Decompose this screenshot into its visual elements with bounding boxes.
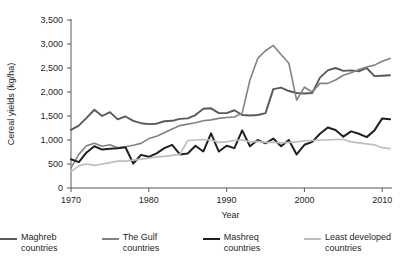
- legend-item[interactable]: Maghreb countries: [0, 232, 88, 254]
- series-line: [71, 68, 390, 130]
- chart-figure: 05001,0001,5002,0002,5003,0003,500197019…: [0, 0, 412, 268]
- y-axis-tick-label: 1,500: [40, 111, 63, 121]
- line-chart-canvas: 05001,0001,5002,0002,5003,0003,500197019…: [0, 0, 412, 232]
- x-axis-tick-label: 1970: [61, 195, 81, 205]
- x-axis-tick-label: 1990: [217, 195, 237, 205]
- legend-swatch: [203, 238, 220, 240]
- y-axis-tick-label: 2,500: [40, 63, 63, 73]
- legend-swatch: [304, 238, 321, 240]
- legend-label: Mashreq countries: [224, 232, 290, 254]
- y-axis-tick-label: 1,000: [40, 135, 63, 145]
- y-axis-tick-label: 0: [58, 183, 63, 193]
- x-axis-tick-label: 2000: [294, 195, 314, 205]
- legend-item[interactable]: Least developed countries: [304, 232, 412, 254]
- legend-label: Maghreb countries: [21, 232, 88, 254]
- x-axis-title: Year: [221, 210, 239, 220]
- x-axis-tick-label: 1980: [139, 195, 159, 205]
- legend-swatch: [102, 238, 119, 240]
- legend-label: The Gulf countries: [123, 232, 189, 254]
- y-axis-tick-label: 3,000: [40, 39, 63, 49]
- y-axis-tick-label: 3,500: [40, 15, 63, 25]
- series-line: [71, 140, 390, 172]
- series-line: [71, 45, 390, 167]
- legend-item[interactable]: The Gulf countries: [102, 232, 189, 254]
- x-axis-tick-label: 2010: [372, 195, 392, 205]
- legend-swatch: [0, 238, 17, 240]
- y-axis-tick-label: 2,000: [40, 87, 63, 97]
- y-axis-tick-label: 500: [48, 159, 63, 169]
- legend-item[interactable]: Mashreq countries: [203, 232, 290, 254]
- legend-label: Least developed countries: [325, 232, 412, 254]
- chart-legend: Maghreb countriesThe Gulf countriesMashr…: [0, 232, 412, 254]
- y-axis-title: Cereal yields (kg/ha): [6, 63, 16, 146]
